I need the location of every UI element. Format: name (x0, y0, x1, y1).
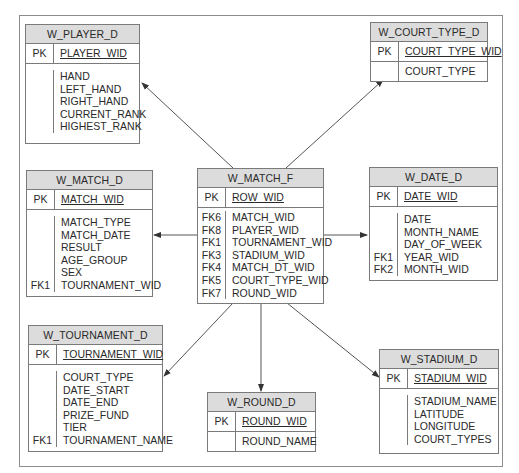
field-name: MATCH_TYPE (61, 216, 161, 229)
field-name: HAND (60, 70, 146, 83)
table-title: W_ROUND_D (208, 393, 315, 412)
field-key (370, 238, 397, 251)
table-date-d: W_DATE_D PK DATE_WID FK1 FK2 DATE MONTH_… (369, 167, 498, 281)
field-key (370, 213, 397, 226)
field-key: FK4 (198, 261, 225, 274)
fields: FK1 COURT_TYPE DATE_START DATE_END PRIZE… (29, 365, 162, 451)
pk-field: TOURNAMENT_WID (63, 348, 163, 360)
pk-row: PK TOURNAMENT_WID (29, 345, 162, 365)
key-label: PK (198, 188, 226, 207)
field-name: LONGITUDE (414, 420, 498, 433)
field-name: TOURNAMENT_NAME (63, 434, 173, 447)
table-court-type-d: W_COURT_TYPE_D PK COURT_TYPE_WID COURT_T… (370, 22, 488, 82)
table-tournament-d: W_TOURNAMENT_D PK TOURNAMENT_WID FK1 COU… (28, 325, 163, 452)
field-name: TOURNAMENT_WID (232, 236, 332, 249)
fields: COURT_TYPE (371, 62, 487, 81)
field-name: TIER (63, 421, 173, 434)
pk-field: ROW_WID (232, 191, 284, 203)
pk-field: PLAYER_WID (60, 47, 127, 59)
field-key (29, 409, 56, 422)
pk-field: COURT_TYPE_WID (405, 45, 502, 57)
field-name: AGE_GROUP (61, 254, 161, 267)
fields: FK6 FK8 FK1 FK3 FK4 FK5 FK7 MATCH_WID PL… (198, 208, 323, 303)
table-title: W_DATE_D (370, 168, 497, 187)
key-label: PK (27, 190, 55, 209)
field-name: CURRENT_RANK (60, 108, 146, 121)
pk-field: DATE_WID (404, 190, 457, 202)
field-name: COURT_TYPE (63, 371, 173, 384)
field-name: COURT_TYPES (414, 433, 498, 446)
key-label: PK (380, 369, 408, 388)
field-name: HIGHEST_RANK (60, 120, 146, 133)
fields: STADIUM_NAME LATITUDE LONGITUDE COURT_TY… (380, 389, 498, 453)
pk-row: PK PLAYER_WID (26, 44, 139, 64)
field-key (370, 226, 397, 239)
field-key: FK1 (198, 236, 225, 249)
field-name: YEAR_WID (404, 251, 497, 264)
field-key (26, 70, 53, 83)
fields: FK1 MATCH_TYPE MATCH_DATE RESULT AGE_GRO… (27, 210, 152, 296)
table-title: W_MATCH_D (27, 171, 152, 190)
table-title: W_STADIUM_D (380, 350, 498, 369)
field-name: LEFT_HAND (60, 83, 146, 96)
field-key (26, 120, 53, 133)
table-title: W_COURT_TYPE_D (371, 23, 487, 42)
field-name: RIGHT_HAND (60, 95, 146, 108)
field-name: PLAYER_WID (232, 224, 332, 237)
field-key (380, 420, 407, 433)
field-key: FK1 (29, 434, 56, 447)
field-name: RESULT (61, 241, 161, 254)
table-title: W_MATCH_F (198, 169, 323, 188)
field-name: MONTH_NAME (404, 226, 497, 239)
field-key (27, 266, 54, 279)
field-name: ROUND_NAME (236, 432, 317, 451)
key-label: PK (29, 345, 57, 364)
table-player-d: W_PLAYER_D PK PLAYER_WID HAND LEFT_HAND … (25, 24, 140, 144)
field-key (371, 62, 399, 81)
field-key (27, 229, 54, 242)
field-key (29, 384, 56, 397)
field-key (29, 396, 56, 409)
field-key (380, 395, 407, 408)
field-key: FK8 (198, 224, 225, 237)
pk-field: STADIUM_WID (414, 372, 487, 384)
pk-field: ROUND_WID (242, 415, 307, 427)
arrow-to-stadium (287, 303, 379, 377)
table-title: W_TOURNAMENT_D (29, 326, 162, 345)
field-key: FK1 (27, 279, 54, 292)
key-label: PK (370, 187, 398, 206)
field-key: FK2 (370, 263, 397, 276)
field-name: SEX (61, 266, 161, 279)
field-key (27, 216, 54, 229)
fields: ROUND_NAME (208, 432, 315, 451)
field-name: STADIUM_NAME (414, 395, 498, 408)
pk-row: PK STADIUM_WID (380, 369, 498, 389)
field-key (380, 433, 407, 446)
pk-row: PK MATCH_WID (27, 190, 152, 210)
pk-row: PK ROUND_WID (208, 412, 315, 432)
field-key (29, 421, 56, 434)
field-key (27, 241, 54, 254)
table-title: W_PLAYER_D (26, 25, 139, 44)
pk-field: MATCH_WID (61, 193, 124, 205)
field-name: STADIUM_WID (232, 249, 332, 262)
arrow-to-tournament (164, 303, 233, 376)
field-name: DATE_END (63, 396, 173, 409)
field-name: DAY_OF_WEEK (404, 238, 497, 251)
table-match-f: W_MATCH_F PK ROW_WID FK6 FK8 FK1 FK3 FK4… (197, 168, 324, 304)
arrow-to-court-type (286, 80, 383, 168)
pk-row: PK DATE_WID (370, 187, 497, 207)
field-name: MATCH_DATE (61, 229, 161, 242)
field-name: MATCH_DT_WID (232, 261, 332, 274)
field-name: DATE_START (63, 384, 173, 397)
table-match-d: W_MATCH_D PK MATCH_WID FK1 MATCH_TYPE MA… (26, 170, 153, 297)
field-key: FK5 (198, 274, 225, 287)
key-label: PK (208, 412, 236, 431)
field-name: ROUND_WID (232, 287, 332, 300)
field-name: LATITUDE (414, 408, 498, 421)
field-name: COURT_TYPE_WID (232, 274, 332, 287)
field-name: MATCH_WID (232, 211, 332, 224)
field-key: FK3 (198, 249, 225, 262)
arrow-to-player (142, 83, 233, 168)
field-key: FK7 (198, 287, 225, 300)
